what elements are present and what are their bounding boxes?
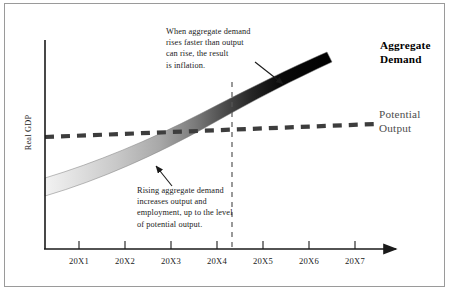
potential-output-line — [45, 124, 375, 137]
x-tick-label-2: 20X3 — [148, 256, 194, 266]
y-axis-label: Real GDP — [24, 103, 33, 163]
x-axis-ticks — [79, 241, 355, 249]
output-growth-annotation: Rising aggregate demand increases output… — [137, 185, 233, 230]
output-growth-note-arrow — [156, 166, 172, 186]
x-tick-label-4: 20X5 — [240, 256, 286, 266]
potential-output-label: Potential Output — [379, 108, 421, 135]
x-tick-label-0: 20X1 — [56, 256, 102, 266]
x-tick-label-5: 20X6 — [286, 256, 332, 266]
inflation-annotation: When aggregate demand rises faster than … — [166, 26, 251, 71]
x-tick-label-3: 20X4 — [194, 256, 240, 266]
x-tick-label-1: 20X2 — [102, 256, 148, 266]
economics-figure: Real GDP When aggregate demand rises fas… — [0, 0, 451, 293]
x-tick-label-6: 20X7 — [332, 256, 378, 266]
aggregate-demand-band — [45, 52, 332, 196]
aggregate-demand-label: Aggregate Demand — [380, 39, 431, 66]
